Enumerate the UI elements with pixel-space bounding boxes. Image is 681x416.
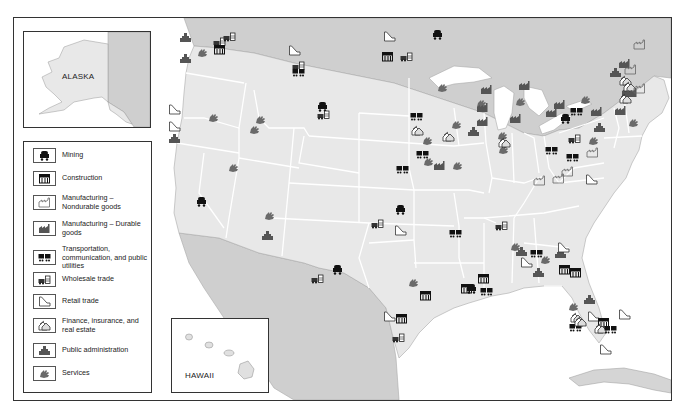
factory-solid-icon <box>545 104 558 115</box>
hand-services-icon <box>627 114 640 125</box>
construction-building-icon <box>419 287 432 298</box>
hand-services-icon <box>407 274 420 285</box>
finance-houses-icon <box>574 313 587 324</box>
train-cars-icon <box>449 225 462 236</box>
mining-cart-icon <box>431 26 444 37</box>
truck-warehouse-icon <box>33 272 56 287</box>
finance-houses-icon <box>498 134 511 145</box>
capitol-building-icon <box>179 29 192 40</box>
hand-services-icon <box>33 366 56 381</box>
hand-services-icon <box>421 132 434 143</box>
factory-solid-icon <box>614 102 627 113</box>
retail-slope-icon <box>585 171 598 182</box>
hand-services-icon <box>227 159 240 170</box>
legend-item-wholesale: Wholesale trade <box>33 272 148 287</box>
truck-warehouse-icon <box>317 106 330 117</box>
train-cars-icon <box>410 108 423 119</box>
train-cars-icon <box>604 321 617 332</box>
capitol-building-icon <box>467 123 480 134</box>
finance-houses-icon <box>33 318 56 333</box>
hand-services-icon <box>196 44 209 55</box>
capitol-building-icon <box>532 264 545 275</box>
retail-slope-icon <box>599 341 612 352</box>
hand-services-icon <box>567 298 580 309</box>
mining-cart-icon <box>331 261 344 272</box>
hand-services-icon <box>587 132 600 143</box>
factory-outline-icon <box>552 170 565 181</box>
legend-label: Manufacturing – Nondurable goods <box>62 194 148 211</box>
legend-label: Manufacturing – Durable goods <box>62 220 148 237</box>
factory-outline-icon <box>633 36 646 47</box>
hawaii-map <box>172 319 268 392</box>
construction-building-icon <box>213 41 226 52</box>
legend-label: Retail trade <box>62 297 148 306</box>
alaska-label: ALASKA <box>62 72 94 81</box>
hand-services-icon <box>450 116 463 127</box>
legend-item-mfg-nondurable: Manufacturing – Nondurable goods <box>33 194 148 211</box>
hand-services-icon <box>539 251 552 262</box>
capitol-building-icon <box>33 343 56 358</box>
construction-building-icon <box>477 270 490 281</box>
hand-services-icon <box>579 91 592 102</box>
retail-slope-icon <box>394 222 407 233</box>
construction-building-icon <box>395 310 408 321</box>
train-cars-icon <box>33 250 56 265</box>
retail-slope-icon <box>33 294 56 309</box>
retail-slope-icon <box>383 28 396 39</box>
hawaii-inset: HAWAII <box>171 318 269 393</box>
capitol-building-icon <box>583 291 596 302</box>
maui-island <box>224 350 234 356</box>
legend-item-mfg-durable: Manufacturing – Durable goods <box>33 220 148 237</box>
hand-services-icon <box>514 93 527 104</box>
finance-houses-icon <box>619 90 632 101</box>
factory-outline-icon <box>533 172 546 183</box>
legend-label: Finance, insurance, and real estate <box>62 317 148 334</box>
hand-services-icon <box>436 79 449 90</box>
legend-item-services: Services <box>33 366 148 381</box>
retail-slope-icon <box>288 42 301 53</box>
truck-warehouse-icon <box>392 329 405 340</box>
legend-label: Construction <box>62 174 148 183</box>
capitol-building-icon <box>593 119 606 130</box>
truck-warehouse-icon <box>311 270 324 281</box>
mining-cart-icon <box>195 193 208 204</box>
retail-slope-icon <box>618 306 631 317</box>
hawaii-label: HAWAII <box>185 371 214 380</box>
capitol-building-icon <box>261 227 274 238</box>
factory-outline-icon <box>586 144 599 155</box>
legend-item-retail: Retail trade <box>33 294 148 309</box>
hand-services-icon <box>263 207 276 218</box>
factory-solid-icon <box>518 77 531 88</box>
train-cars-icon <box>545 142 558 153</box>
big-island <box>238 361 254 379</box>
train-cars-icon <box>480 283 493 294</box>
truck-warehouse-icon <box>568 130 581 141</box>
factory-outline-icon <box>633 80 646 91</box>
alaska-inset: ALASKA <box>23 31 151 128</box>
map-frame: ALASKA HAWAII MiningConstructionManufact… <box>13 17 672 401</box>
retail-slope-icon <box>168 118 181 129</box>
mining-cart-icon <box>33 148 56 163</box>
legend-item-finance: Finance, insurance, and real estate <box>33 317 148 334</box>
train-cars-icon <box>396 161 409 172</box>
factory-solid-icon <box>480 81 493 92</box>
factory-solid-icon <box>590 103 603 114</box>
legend-item-mining: Mining <box>33 148 148 163</box>
construction-building-icon <box>558 261 571 272</box>
capitol-building-icon <box>168 130 181 141</box>
hand-services-icon <box>451 157 464 168</box>
truck-warehouse-icon <box>495 217 508 228</box>
factory-solid-icon <box>509 110 522 121</box>
train-cars-icon <box>566 149 579 160</box>
retail-slope-icon <box>168 101 181 112</box>
truck-warehouse-icon <box>223 28 236 39</box>
legend: MiningConstructionManufacturing – Nondur… <box>23 141 152 393</box>
construction-building-icon <box>33 171 56 186</box>
retail-slope-icon <box>557 239 570 250</box>
hand-services-icon <box>248 121 261 132</box>
truck-warehouse-icon <box>400 48 413 59</box>
factory-outline-icon <box>624 61 637 72</box>
factory-solid-icon <box>433 157 446 168</box>
legend-label: Wholesale trade <box>62 275 148 284</box>
cuba-landmass <box>569 368 671 393</box>
